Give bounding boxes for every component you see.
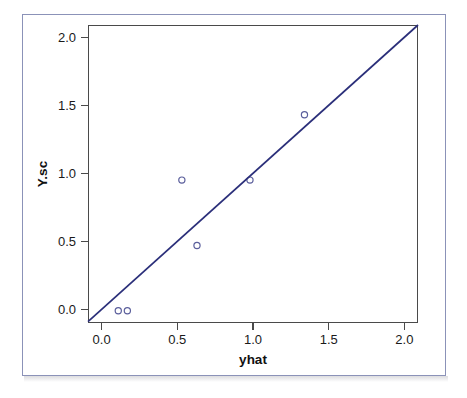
y-axis-tick [81,241,88,242]
y-axis-tick-label: 2.0 [58,30,76,45]
y-axis-tick [81,105,88,106]
x-axis-tick [101,323,102,330]
data-point-marker [194,242,200,248]
x-axis-tick [177,323,178,330]
y-axis-tick-label: 0.0 [58,302,76,317]
data-point-marker [301,112,307,118]
scatter-plot-figure: 0.00.51.01.52.00.00.51.01.52.0 yhat Y.sc [0,0,467,398]
data-layer [88,25,418,323]
y-axis-tick [81,309,88,310]
y-axis-tick-label: 0.5 [58,234,76,249]
y-axis-tick-label: 1.5 [58,98,76,113]
x-axis-tick [252,323,253,330]
identity-line [88,25,418,322]
figure-shadow [24,376,448,382]
y-axis-tick-label: 1.0 [58,166,76,181]
plot-area [88,25,418,323]
x-axis-tick [404,323,405,330]
x-axis-tick-label: 0.5 [168,332,186,347]
x-axis-tick-label: 2.0 [395,332,413,347]
data-point-marker [124,308,130,314]
x-axis-tick [328,323,329,330]
x-axis-tick-label: 0.0 [93,332,111,347]
data-point-marker [179,177,185,183]
x-axis-label: yhat [239,352,267,367]
y-axis-tick [81,37,88,38]
y-axis-label: Y.sc [35,161,50,187]
x-axis-tick-label: 1.5 [320,332,338,347]
y-axis-tick [81,173,88,174]
x-axis-tick-label: 1.0 [244,332,262,347]
data-point-marker [115,308,121,314]
